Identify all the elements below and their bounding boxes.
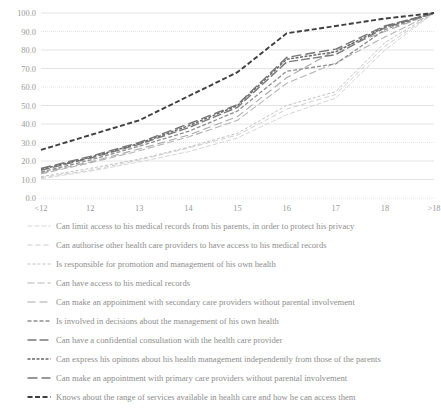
- legend-item-label: Can make an appointment with secondary c…: [56, 297, 355, 307]
- legend-line-swatch-icon: [27, 335, 51, 345]
- legend-item-label: Can have a confidential consultation wit…: [56, 335, 282, 345]
- x-tick-label: 14: [184, 204, 193, 213]
- legend-line-swatch-icon: [27, 316, 51, 326]
- x-tick-label: 12: [86, 204, 94, 213]
- legend-line-swatch-icon: [27, 240, 51, 250]
- legend-line-swatch-icon: [27, 221, 51, 231]
- legend-item[interactable]: Can limit access to his medical records …: [0, 216, 441, 235]
- legend-item[interactable]: Can have a confidential consultation wit…: [0, 330, 441, 349]
- y-tick-label: 20.0: [21, 157, 36, 166]
- y-tick-label: 70.0: [21, 65, 36, 74]
- y-tick-label: 90.0: [21, 28, 36, 37]
- legend-line-swatch-icon: [27, 259, 51, 269]
- line-chart-svg: 0.010.020.030.040.050.060.070.080.090.01…: [0, 0, 441, 216]
- legend-item-label: Can limit access to his medical records …: [56, 221, 354, 231]
- series-line: [41, 13, 434, 177]
- legend-item-label: Is responsible for promotion and managem…: [56, 259, 276, 269]
- chart-figure: 0.010.020.030.040.050.060.070.080.090.01…: [0, 0, 441, 411]
- y-tick-label: 100.0: [17, 9, 36, 18]
- x-tick-label: 18: [381, 204, 389, 213]
- legend-item[interactable]: Can express his opinons about his health…: [0, 349, 441, 368]
- legend-item[interactable]: Is responsible for promotion and managem…: [0, 254, 441, 273]
- legend-item-label: Can express his opinons about his health…: [56, 354, 381, 364]
- y-axis-tick-labels: 0.010.020.030.040.050.060.070.080.090.01…: [17, 9, 36, 203]
- legend-line-swatch-icon: [27, 297, 51, 307]
- y-tick-label: 0.0: [26, 194, 36, 203]
- x-tick-label: <12: [34, 204, 47, 213]
- legend-line-swatch-icon: [27, 278, 51, 288]
- y-tick-label: 80.0: [21, 46, 36, 55]
- legend-item[interactable]: Can have access to his medical records: [0, 273, 441, 292]
- y-tick-label: 60.0: [21, 83, 36, 92]
- x-tick-label: 17: [332, 204, 340, 213]
- x-tick-label: >18: [427, 204, 440, 213]
- y-tick-label: 30.0: [21, 139, 36, 148]
- y-tick-label: 40.0: [21, 120, 36, 129]
- legend-item-label: Can make an appointment with primary car…: [56, 373, 347, 383]
- legend-line-swatch-icon: [27, 354, 51, 364]
- legend-item[interactable]: Can authorise other health care provider…: [0, 235, 441, 254]
- legend-item-label: Can have access to his medical records: [56, 278, 190, 288]
- plot-area: 0.010.020.030.040.050.060.070.080.090.01…: [0, 0, 441, 216]
- legend-item[interactable]: Can make an appointment with primary car…: [0, 368, 441, 387]
- legend-line-swatch-icon: [27, 373, 51, 383]
- legend-item[interactable]: Is involved in decisions about the manag…: [0, 311, 441, 330]
- x-tick-label: 13: [135, 204, 143, 213]
- legend-item-label: Is involved in decisions about the manag…: [56, 316, 279, 326]
- gridlines-group: [41, 13, 434, 198]
- x-tick-label: 16: [282, 204, 290, 213]
- series-lines-group: [41, 13, 434, 179]
- figure-caption: [0, 398, 441, 411]
- legend-item-label: Can authorise other health care provider…: [56, 240, 327, 250]
- series-line: [41, 13, 434, 172]
- chart-legend: Can limit access to his medical records …: [0, 216, 441, 396]
- x-tick-label: 15: [233, 204, 241, 213]
- x-axis-tick-labels: <1212131415161718>18: [34, 204, 440, 213]
- legend-item[interactable]: Can make an appointment with secondary c…: [0, 292, 441, 311]
- y-tick-label: 10.0: [21, 176, 36, 185]
- y-tick-label: 50.0: [21, 102, 36, 111]
